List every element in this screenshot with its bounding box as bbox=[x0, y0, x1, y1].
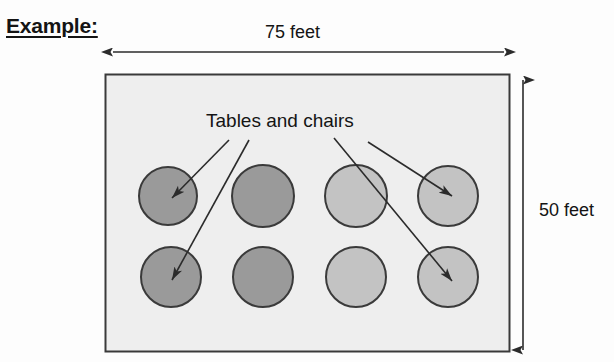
tables-and-chairs-label: Tables and chairs bbox=[206, 110, 354, 132]
table-circle-r1c1 bbox=[139, 167, 197, 225]
table-circle-r1c3 bbox=[325, 165, 387, 227]
diagram-canvas: Example: 75 feet 50 feet Tables and chai… bbox=[0, 0, 614, 362]
page-title: Example: bbox=[6, 14, 98, 38]
width-dimension-label: 75 feet bbox=[265, 22, 320, 43]
table-circle-r1c2 bbox=[232, 165, 294, 227]
height-dimension-label: 50 feet bbox=[539, 200, 594, 221]
table-circle-r2c2 bbox=[233, 247, 293, 307]
table-circle-r2c3 bbox=[326, 247, 386, 307]
floor-plan-svg bbox=[0, 0, 614, 362]
table-circle-r2c1 bbox=[141, 247, 201, 307]
table-circle-r1c4 bbox=[418, 166, 478, 226]
